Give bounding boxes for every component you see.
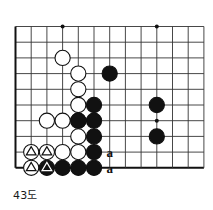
point-label-a: a <box>106 146 113 159</box>
white-stone[interactable] <box>55 145 70 160</box>
black-stone[interactable] <box>149 97 164 112</box>
stone-disc <box>71 113 86 128</box>
stone-disc <box>102 66 117 81</box>
stone-disc <box>149 129 164 144</box>
stone-disc <box>86 145 101 160</box>
black-stone[interactable] <box>39 160 54 175</box>
black-stone[interactable] <box>55 160 70 175</box>
diagram-caption: 43도 <box>13 186 38 202</box>
stone-disc <box>55 145 70 160</box>
white-stone[interactable] <box>55 50 70 65</box>
black-stone[interactable] <box>86 160 101 175</box>
black-stone[interactable] <box>71 160 86 175</box>
black-stone[interactable] <box>149 129 164 144</box>
stone-disc <box>86 97 101 112</box>
star-point <box>61 25 65 29</box>
stone-disc <box>86 160 101 175</box>
white-stone[interactable] <box>55 113 70 128</box>
white-stone[interactable] <box>71 145 86 160</box>
stone-disc <box>55 113 70 128</box>
stone-disc <box>55 50 70 65</box>
white-stone[interactable] <box>39 145 54 160</box>
white-stone[interactable] <box>24 145 39 160</box>
stone-disc <box>86 113 101 128</box>
black-stone[interactable] <box>71 113 86 128</box>
star-point <box>155 119 159 123</box>
white-stone[interactable] <box>24 160 39 175</box>
stone-disc <box>149 97 164 112</box>
white-stone[interactable] <box>71 66 86 81</box>
stone-disc <box>71 66 86 81</box>
black-stone[interactable] <box>86 145 101 160</box>
white-stone[interactable] <box>71 82 86 97</box>
go-diagram: aa 43도 <box>0 0 213 210</box>
go-board[interactable]: aa <box>0 0 213 185</box>
stone-disc <box>71 97 86 112</box>
black-stone[interactable] <box>86 97 101 112</box>
point-label-a: a <box>106 161 113 174</box>
stone-disc <box>86 129 101 144</box>
stone-disc <box>71 145 86 160</box>
stone-disc <box>71 129 86 144</box>
stone-disc <box>71 160 86 175</box>
white-stone[interactable] <box>71 129 86 144</box>
black-stone[interactable] <box>102 66 117 81</box>
white-stone[interactable] <box>71 97 86 112</box>
stone-disc <box>71 82 86 97</box>
black-stone[interactable] <box>86 113 101 128</box>
star-point <box>155 25 159 29</box>
white-stone[interactable] <box>39 113 54 128</box>
black-stone[interactable] <box>86 129 101 144</box>
stone-disc <box>39 113 54 128</box>
stone-disc <box>55 160 70 175</box>
